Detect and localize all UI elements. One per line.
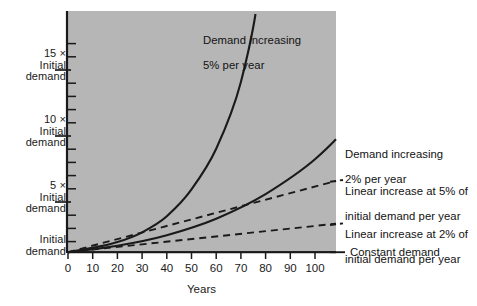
- series-exponential-2pct: [68, 139, 336, 252]
- annotation-exp2-line1: Demand increasing: [345, 148, 443, 160]
- leader-linear-5pct: [330, 180, 343, 182]
- y-tick-label-5x: 5 × Initial demand: [10, 180, 66, 215]
- annotation-lin5-line1: Linear increase at 5% of: [345, 185, 468, 197]
- series-linear-5pct: [68, 181, 336, 252]
- demand-growth-chart: 15 × Initial demand 10 × Initial demand …: [0, 0, 477, 306]
- y-tick-label-15x: 15 × Initial demand: [10, 48, 66, 83]
- annotation-constant-demand: Constant demand: [350, 246, 440, 258]
- y-tick-initial-line1: Initial: [10, 234, 66, 246]
- label-leader-marks: [330, 180, 345, 252]
- y-tick-5x-line2: demand: [10, 203, 66, 215]
- y-tick-15x-mult: 15 ×: [10, 48, 66, 60]
- y-tick-10x-mult: 10 ×: [10, 114, 66, 126]
- y-tick-label-initial: Initial demand: [10, 234, 66, 257]
- annotation-exp5-line1: Demand increasing: [203, 34, 301, 46]
- y-minor-ticks: [67, 44, 76, 242]
- y-tick-15x-line2: demand: [10, 71, 66, 83]
- y-tick-10x-line2: demand: [10, 137, 66, 149]
- annotation-exponential-5pct: Demand increasing 5% per year: [203, 22, 301, 84]
- x-axis-title: Years: [187, 283, 216, 295]
- annotation-exp5-line2: 5% per year: [203, 59, 301, 71]
- annotation-lin2-line1: Linear increase at 2% of: [345, 228, 468, 240]
- y-tick-5x-mult: 5 ×: [10, 180, 66, 192]
- x-tick-label-100: 100: [300, 262, 330, 274]
- y-tick-initial-line2: demand: [10, 246, 66, 258]
- y-tick-label-10x: 10 × Initial demand: [10, 114, 66, 149]
